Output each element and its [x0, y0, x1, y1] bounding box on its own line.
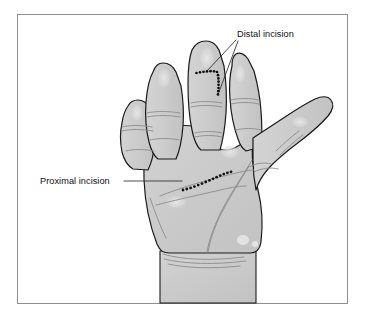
distal-incision-label: Distal incision: [237, 29, 294, 39]
figure-root: Distal incision Proximal incision: [0, 0, 366, 319]
hand-incision-illustration: Distal incision Proximal incision: [0, 0, 366, 319]
wrist: [160, 251, 256, 303]
proximal-incision-label: Proximal incision: [40, 176, 110, 186]
